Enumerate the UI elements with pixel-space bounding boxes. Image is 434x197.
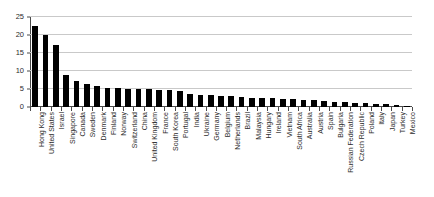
x-tick-mark (247, 107, 248, 111)
x-tick-mark (195, 107, 196, 111)
y-tick-label: 5 (20, 85, 24, 93)
x-tick-label: South Africa (296, 112, 303, 150)
bar (208, 95, 214, 107)
bar (105, 88, 111, 107)
x-tick-label: Norway (120, 112, 127, 136)
x-tick-mark (236, 107, 237, 111)
x-tick-mark (154, 107, 155, 111)
x-tick-mark (164, 107, 165, 111)
bar (43, 35, 49, 107)
x-tick-label: Czech Republic (358, 112, 365, 161)
y-tick-label: 0 (20, 103, 24, 111)
x-tick-mark (30, 107, 31, 111)
x-tick-mark (71, 107, 72, 111)
x-tick-label: Vietnam (286, 112, 293, 138)
bar (249, 98, 255, 107)
x-tick-label: Belgium (224, 112, 231, 137)
x-tick-mark (40, 107, 41, 111)
x-axis-labels: Hong KongUnited StatesIsraelSingaporeCan… (30, 112, 412, 197)
x-tick-mark (371, 107, 372, 111)
bar (259, 98, 265, 107)
x-tick-mark (206, 107, 207, 111)
bar (84, 84, 90, 107)
x-tick-mark (226, 107, 227, 111)
bar (94, 86, 100, 107)
bar (115, 88, 121, 107)
x-tick-mark (402, 107, 403, 111)
x-tick-label: Ireland (275, 112, 282, 133)
x-tick-mark (340, 107, 341, 111)
x-tick-label: Mexico (409, 112, 416, 134)
x-tick-mark (391, 107, 392, 111)
bar (301, 100, 307, 107)
x-tick-label: Denmark (100, 112, 107, 140)
bar (74, 81, 80, 107)
x-tick-mark (123, 107, 124, 111)
y-tick-label: 15 (16, 49, 24, 57)
x-tick-mark (288, 107, 289, 111)
bar (177, 91, 183, 107)
y-axis: 0510152025 (0, 0, 30, 120)
bar (156, 90, 162, 107)
x-tick-label: Finland (110, 112, 117, 135)
x-tick-label: Switzerland (131, 112, 138, 148)
bar (228, 96, 234, 107)
x-tick-label: Bulgaria (337, 112, 344, 138)
x-axis-ticks (30, 107, 412, 111)
y-tick-label: 10 (16, 67, 24, 75)
x-tick-mark (329, 107, 330, 111)
y-tick-label: 20 (16, 31, 24, 39)
x-tick-mark (51, 107, 52, 111)
bar (136, 89, 142, 107)
bar (270, 98, 276, 107)
bars-layer (30, 17, 412, 107)
x-tick-label: Ukraine (203, 112, 210, 136)
x-tick-label: Portugal (182, 112, 189, 138)
x-tick-mark (144, 107, 145, 111)
x-tick-label: Singapore (69, 112, 76, 144)
bar (32, 26, 38, 107)
bar-chart: 0510152025 Hong KongUnited StatesIsraelS… (0, 0, 434, 197)
x-tick-label: United States (48, 112, 55, 154)
x-tick-label: Netherlands (234, 112, 241, 150)
x-tick-label: Poland (368, 112, 375, 134)
y-tick-label: 25 (16, 13, 24, 21)
x-tick-mark (185, 107, 186, 111)
x-tick-mark (113, 107, 114, 111)
x-tick-mark (298, 107, 299, 111)
bar (187, 94, 193, 107)
x-tick-label: India (193, 112, 200, 127)
x-tick-label: Brazil (244, 112, 251, 130)
bar (53, 45, 59, 107)
x-tick-label: Malaysia (255, 112, 262, 140)
x-tick-mark (257, 107, 258, 111)
x-tick-mark (319, 107, 320, 111)
bar (167, 90, 173, 107)
x-tick-mark (412, 107, 413, 111)
x-tick-label: Sweden (89, 112, 96, 137)
x-tick-label: Turkey (399, 112, 406, 133)
x-tick-label: Spain (327, 112, 334, 130)
x-tick-label: Germany (213, 112, 220, 141)
x-tick-label: China (141, 112, 148, 130)
x-tick-mark (309, 107, 310, 111)
x-tick-label: Hong Kong (38, 112, 45, 147)
x-tick-label: Israel (58, 112, 65, 129)
bar (311, 100, 317, 107)
x-tick-label: Australia (306, 112, 313, 139)
x-tick-mark (92, 107, 93, 111)
bar (125, 89, 131, 107)
bar (239, 97, 245, 107)
x-tick-mark (350, 107, 351, 111)
bar (290, 99, 296, 107)
x-tick-label: Canada (79, 112, 86, 137)
x-tick-label: Austria (317, 112, 324, 134)
x-tick-label: Hungary (265, 112, 272, 138)
x-tick-mark (360, 107, 361, 111)
bar (218, 96, 224, 107)
x-tick-mark (216, 107, 217, 111)
x-tick-label: Japan (389, 112, 396, 131)
x-tick-mark (102, 107, 103, 111)
x-tick-mark (82, 107, 83, 111)
x-tick-label: Italy (378, 112, 385, 125)
